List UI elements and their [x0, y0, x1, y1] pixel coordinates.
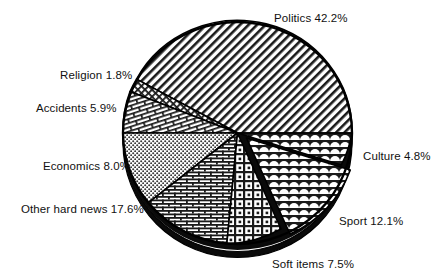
slice-label-other-hard-news: Other hard news 17.6%: [21, 203, 144, 216]
pie-chart-figure: Politics 42.2% Religion 1.8% Accidents 5…: [0, 0, 447, 278]
slice-label-religion: Religion 1.8%: [60, 69, 132, 82]
slice-label-culture: Culture 4.8%: [363, 150, 431, 163]
slice-label-economics: Economics 8.0%: [43, 160, 130, 173]
slice-label-accidents: Accidents 5.9%: [36, 102, 117, 115]
slice-label-sport: Sport 12.1%: [339, 215, 403, 228]
pie-chart-svg: [0, 0, 447, 278]
slice-label-soft-items: Soft items 7.5%: [272, 258, 354, 271]
slice-label-politics: Politics 42.2%: [274, 12, 348, 25]
